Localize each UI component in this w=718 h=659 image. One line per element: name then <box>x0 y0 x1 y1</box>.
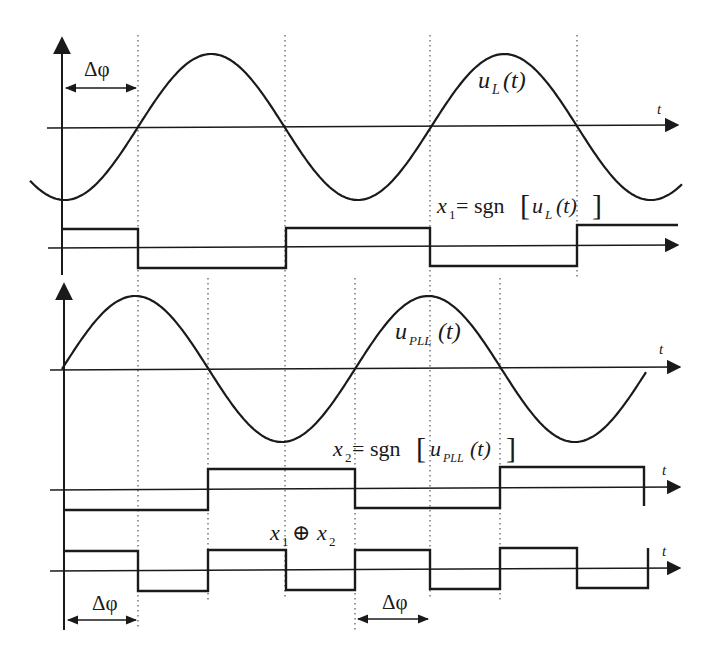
svg-text:u: u <box>532 193 543 218</box>
uL-label: u L (t) <box>478 67 526 97</box>
t-label-uL: t <box>657 101 662 117</box>
svg-text:(t): (t) <box>438 318 461 344</box>
svg-text:u: u <box>395 318 407 344</box>
delta-phi-label-top: Δφ <box>84 57 110 81</box>
uL-time-axis <box>47 125 678 128</box>
xor-time-axis <box>50 568 680 571</box>
svg-text:(t): (t) <box>503 67 526 93</box>
x2-square-wave <box>64 467 644 510</box>
svg-text:L: L <box>491 82 500 97</box>
svg-text:u: u <box>430 436 441 461</box>
dotted-guide-lines <box>138 35 577 630</box>
svg-text:⊕: ⊕ <box>292 520 310 545</box>
svg-text:PLL: PLL <box>408 333 431 348</box>
svg-text:L: L <box>544 207 552 222</box>
delta-phi-label-bottom-center: Δφ <box>382 590 408 614</box>
svg-text:= sgn: = sgn <box>352 436 400 461</box>
svg-text:]: ] <box>506 431 516 464</box>
svg-text:x: x <box>269 520 280 545</box>
svg-text:[: [ <box>520 188 530 221</box>
delta-phi-label-bottom-left: Δφ <box>92 591 118 615</box>
svg-text:]: ] <box>592 188 602 221</box>
svg-text:= sgn: = sgn <box>456 193 504 218</box>
svg-text:2: 2 <box>329 534 336 549</box>
svg-text:(t): (t) <box>470 436 491 461</box>
svg-text:1: 1 <box>282 534 289 549</box>
x1-time-axis <box>48 245 678 248</box>
x2-label: x 2 = sgn [ u PLL (t) ] <box>332 431 516 465</box>
svg-text:x: x <box>436 193 447 218</box>
svg-text:(t): (t) <box>556 193 577 218</box>
svg-text:PLL: PLL <box>442 451 464 465</box>
svg-text:1: 1 <box>449 207 456 222</box>
svg-text:u: u <box>478 67 490 93</box>
xor-square-wave <box>64 548 648 591</box>
svg-text:x: x <box>316 520 327 545</box>
timing-diagram: Δφ Δφ Δφ t t t t u L (t) x 1 = sgn [ u L… <box>0 0 718 659</box>
t-label-uPLL: t <box>659 341 664 357</box>
t-label-x2: t <box>662 462 667 478</box>
svg-text:[: [ <box>416 431 426 464</box>
t-label-xor: t <box>662 543 667 559</box>
uPLL-label: u PLL (t) <box>395 318 461 348</box>
svg-text:x: x <box>332 436 343 461</box>
svg-text:2: 2 <box>345 450 352 465</box>
uPLL-time-axis <box>50 367 680 370</box>
x2-time-axis <box>50 487 680 490</box>
xor-label: x 1 ⊕ x 2 <box>269 520 336 549</box>
